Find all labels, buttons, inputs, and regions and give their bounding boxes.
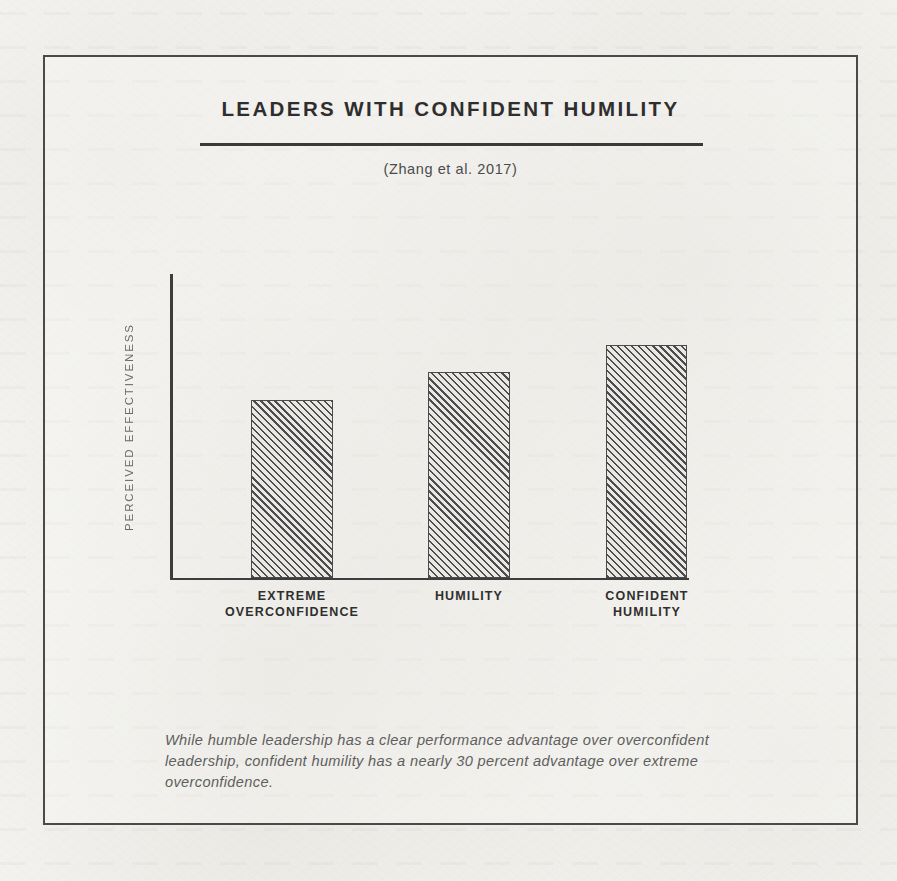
plot-area: PERCEIVED EFFECTIVENESS EXTREME OVERCONF… <box>170 274 689 580</box>
x-axis-line <box>170 578 689 581</box>
bar-confident-humility <box>606 345 687 578</box>
tick-label-line-2: HUMILITY <box>613 605 681 619</box>
tick-label-humility: HUMILITY <box>389 588 549 604</box>
figure-frame: LEADERS WITH CONFIDENT HUMILITY (Zhang e… <box>43 55 858 825</box>
tick-label-extreme-overconfidence: EXTREME OVERCONFIDENCE <box>212 588 372 620</box>
tick-label-line-1: CONFIDENT <box>605 589 688 603</box>
chart-subtitle-citation: (Zhang et al. 2017) <box>45 161 856 177</box>
bar-extreme-overconfidence <box>251 400 333 578</box>
tick-label-line-1: HUMILITY <box>435 589 503 603</box>
tick-label-line-2: OVERCONFIDENCE <box>225 605 359 619</box>
chart-title: LEADERS WITH CONFIDENT HUMILITY <box>45 97 856 121</box>
x-axis-tick-labels: EXTREME OVERCONFIDENCE HUMILITY CONFIDEN… <box>170 588 689 638</box>
tick-label-line-1: EXTREME <box>258 589 326 603</box>
figure-caption: While humble leadership has a clear perf… <box>165 730 710 793</box>
y-axis-label: PERCEIVED EFFECTIVENESS <box>123 312 135 542</box>
title-underline-rule <box>200 143 703 146</box>
bars-layer <box>170 275 689 578</box>
tick-label-confident-humility: CONFIDENT HUMILITY <box>567 588 727 620</box>
bar-humility <box>428 372 510 578</box>
